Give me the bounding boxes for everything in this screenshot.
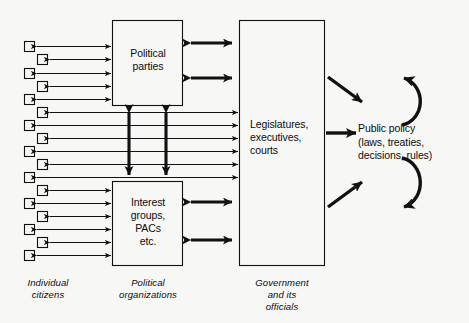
interest-groups-line4: etc. [113, 235, 183, 248]
citizen-square [38, 160, 48, 170]
caption-organizations-line1: Political [96, 277, 200, 289]
citizen-square [25, 173, 35, 183]
government-line2: executives, [250, 131, 324, 144]
citizen-square [25, 251, 35, 261]
arrows-parties-interest-groups [129, 113, 166, 175]
caption-government-officials: Government and its officials [232, 277, 332, 313]
citizen-square [38, 108, 48, 118]
citizen-square [38, 212, 48, 222]
government-label: Legislatures, executives, courts [240, 118, 324, 157]
caption-government-line2: and its [232, 289, 332, 301]
public-policy-label: Public policy (laws, treaties, decisions… [358, 122, 468, 163]
interest-groups-line1: Interest [113, 196, 183, 209]
citizen-square [38, 238, 48, 248]
public-policy-line1: Public policy [358, 122, 468, 136]
policy-arrow-lower [328, 182, 362, 207]
caption-government-line1: Government [232, 277, 332, 289]
citizen-square [38, 55, 48, 65]
feedback-loop-bottom [402, 158, 420, 207]
caption-political-organizations: Political organizations [96, 277, 200, 301]
citizen-square [38, 134, 48, 144]
citizen-square [25, 69, 35, 79]
citizen-square [25, 121, 35, 131]
arrows-citizens-parties [37, 47, 111, 100]
political-parties-line2: parties [113, 60, 183, 73]
arrows-government-policy [326, 77, 362, 207]
diagram-canvas: Political parties Interest groups, PACs … [0, 0, 469, 323]
government-line1: Legislatures, [250, 118, 324, 131]
arrows-interest-groups-government [191, 202, 232, 240]
citizen-square [25, 225, 35, 235]
caption-government-line3: officials [232, 301, 332, 313]
interest-groups-line3: PACs [113, 222, 183, 235]
arrows-citizens-interest-groups [37, 191, 111, 256]
government-line3: courts [250, 144, 324, 157]
citizen-square [25, 42, 35, 52]
arrows-parties-government [191, 43, 232, 78]
policy-arrow-upper [328, 77, 362, 102]
citizen-square [38, 186, 48, 196]
interest-groups-label: Interest groups, PACs etc. [113, 196, 183, 248]
interest-groups-line2: groups, [113, 209, 183, 222]
caption-individual-citizens: Individual citizens [8, 277, 88, 301]
caption-citizens-line2: citizens [8, 289, 88, 301]
political-parties-line1: Political [113, 47, 183, 60]
citizen-square [25, 95, 35, 105]
public-policy-line2: (laws, treaties, [358, 136, 468, 150]
feedback-loop-top [402, 78, 420, 125]
citizen-square [38, 82, 48, 92]
political-parties-label: Political parties [113, 47, 183, 73]
citizen-square [25, 147, 35, 157]
public-policy-line3: decisions, rules) [358, 149, 468, 163]
caption-organizations-line2: organizations [96, 289, 200, 301]
arrows-citizens-government [37, 113, 238, 178]
caption-citizens-line1: Individual [8, 277, 88, 289]
citizen-square [25, 199, 35, 209]
